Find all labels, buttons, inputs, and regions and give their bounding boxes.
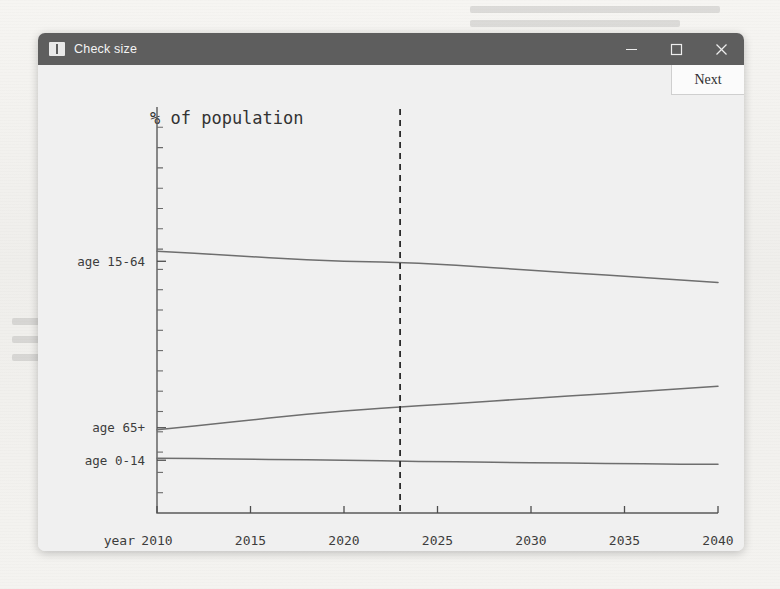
background-text-line — [470, 20, 680, 27]
maximize-icon — [670, 43, 683, 56]
close-button[interactable] — [699, 33, 744, 65]
x-axis-name: year — [104, 533, 135, 548]
maximize-button[interactable] — [654, 33, 699, 65]
chart-title: % of population — [150, 108, 304, 128]
x-axis-ticks — [157, 506, 718, 513]
y-axis-minor-ticks — [157, 127, 163, 492]
x-tick-label: 2040 — [702, 533, 733, 548]
chart-series-group — [157, 251, 718, 464]
axis-lines — [157, 107, 718, 513]
next-button[interactable]: Next — [671, 65, 744, 95]
x-tick-label: 2015 — [235, 533, 266, 548]
population-projection-chart: % of population age 15-64age 65+age 0-14… — [38, 95, 744, 551]
minimize-icon — [625, 43, 638, 56]
x-tick-label: 2030 — [515, 533, 546, 548]
chart-axes — [157, 107, 718, 513]
window-title: Check size — [74, 42, 609, 56]
window-title-bar[interactable]: Check size — [38, 33, 744, 65]
x-tick-label: 2020 — [328, 533, 359, 548]
chart-plot-area: % of population age 15-64age 65+age 0-14… — [38, 95, 744, 551]
background-text-line — [470, 6, 720, 13]
series-label-2: age 65+ — [92, 420, 145, 435]
x-tick-label: 2035 — [609, 533, 640, 548]
x-tick-label: 2025 — [422, 533, 453, 548]
series-line-1 — [157, 251, 718, 282]
window-app-icon — [49, 42, 65, 56]
window-toolbar: Next — [38, 65, 744, 95]
series-line-2 — [157, 386, 718, 429]
y-axis-labels: age 15-64age 65+age 0-14 — [77, 254, 145, 468]
x-tick-label: 2010 — [141, 533, 172, 548]
application-window: Check size Next % of population — [38, 33, 744, 551]
minimize-button[interactable] — [609, 33, 654, 65]
series-line-3 — [157, 458, 718, 464]
close-icon — [715, 43, 728, 56]
x-axis-labels: 2010201520202025203020352040 — [141, 533, 733, 548]
series-label-3: age 0-14 — [85, 453, 145, 468]
series-label-1: age 15-64 — [77, 254, 145, 269]
